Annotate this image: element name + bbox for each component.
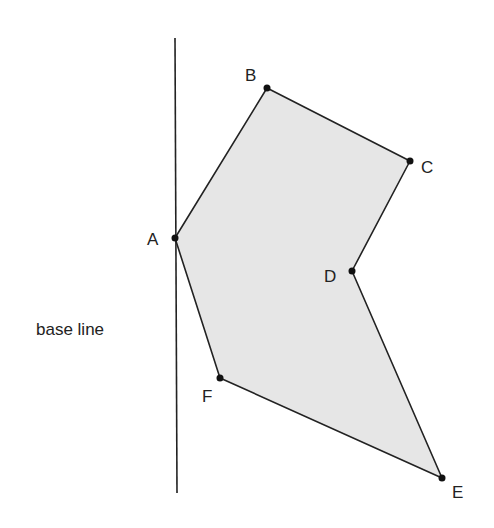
vertex-point-a bbox=[172, 235, 179, 242]
base-line-label: base line bbox=[36, 320, 104, 339]
vertex-label-b: B bbox=[245, 66, 256, 85]
vertex-label-f: F bbox=[202, 387, 212, 406]
vertex-point-d bbox=[349, 268, 356, 275]
vertex-point-f bbox=[217, 375, 224, 382]
vertex-label-e: E bbox=[452, 483, 463, 502]
vertex-label-d: D bbox=[324, 267, 336, 286]
polygon-diagram: base line ABCDFE bbox=[0, 0, 494, 528]
shaded-polygon bbox=[175, 88, 442, 478]
base-line bbox=[175, 38, 177, 493]
vertex-point-c bbox=[407, 158, 414, 165]
vertex-label-c: C bbox=[421, 158, 433, 177]
vertex-point-e bbox=[439, 475, 446, 482]
vertex-label-a: A bbox=[147, 230, 159, 249]
vertex-point-b bbox=[264, 85, 271, 92]
